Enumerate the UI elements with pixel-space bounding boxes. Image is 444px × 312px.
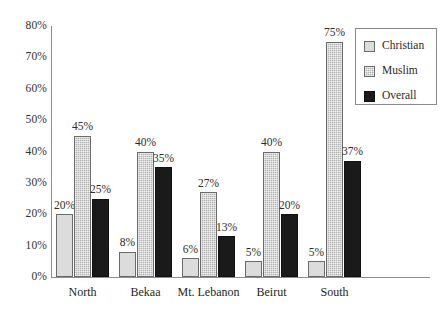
bar-overall <box>92 199 109 277</box>
bar-value-label: 45% <box>68 121 98 133</box>
bar-muslim <box>137 152 154 278</box>
y-axis-tick-label: 60% <box>3 83 47 95</box>
legend-swatch-icon <box>364 41 375 52</box>
bar-muslim <box>326 42 343 277</box>
legend-item-label: Muslim <box>382 65 418 77</box>
bar-group: 20%45%25% <box>56 26 109 277</box>
bar-muslim <box>200 192 217 277</box>
y-axis-tick-label: 50% <box>3 114 47 126</box>
legend-item-overall[interactable]: Overall <box>364 90 416 102</box>
x-axis-line <box>51 277 430 278</box>
bar-christian <box>245 261 262 277</box>
bar-christian <box>56 214 73 277</box>
x-axis-category-label: South <box>290 286 380 298</box>
legend-swatch-icon <box>364 66 375 77</box>
bar-value-label: 35% <box>149 153 179 165</box>
bar-christian <box>119 252 136 277</box>
bar-chart: 80%70%60%50%40%30%20%10%0% 20%45%25%8%40… <box>0 0 444 312</box>
y-axis-tick-label: 70% <box>3 51 47 63</box>
bar-group: 5%75%37% <box>308 26 361 277</box>
bar-muslim <box>263 152 280 278</box>
bar-value-label: 40% <box>131 137 161 149</box>
legend-item-muslim[interactable]: Muslim <box>364 65 418 77</box>
legend-item-christian[interactable]: Christian <box>364 40 424 52</box>
y-axis-tick-label: 40% <box>3 146 47 158</box>
bar-group: 5%40%20% <box>245 26 298 277</box>
bar-muslim <box>74 136 91 277</box>
bar-value-label: 75% <box>320 27 350 39</box>
bar-overall <box>344 161 361 277</box>
y-axis-tick-labels: 80%70%60%50%40%30%20%10%0% <box>0 0 47 312</box>
bar-overall <box>218 236 235 277</box>
bar-value-label: 40% <box>257 137 287 149</box>
bar-christian <box>182 258 199 277</box>
bar-value-label: 20% <box>275 200 305 212</box>
chart-legend: ChristianMuslimOverall <box>355 28 437 105</box>
bar-group: 8%40%35% <box>119 26 172 277</box>
bar-value-label: 37% <box>338 146 368 158</box>
y-axis-tick-label: 0% <box>3 271 47 283</box>
y-axis-tick-label: 30% <box>3 177 47 189</box>
bar-overall <box>155 167 172 277</box>
legend-item-label: Overall <box>382 90 416 102</box>
legend-swatch-icon <box>364 91 375 102</box>
bar-group: 6%27%13% <box>182 26 235 277</box>
y-axis-tick-label: 10% <box>3 240 47 252</box>
bar-overall <box>281 214 298 277</box>
bar-value-label: 25% <box>86 184 116 196</box>
y-axis-tick-label: 80% <box>3 20 47 32</box>
legend-item-label: Christian <box>382 40 424 52</box>
bar-value-label: 27% <box>194 178 224 190</box>
bar-value-label: 13% <box>212 222 242 234</box>
y-axis-tick-label: 20% <box>3 208 47 220</box>
bar-christian <box>308 261 325 277</box>
